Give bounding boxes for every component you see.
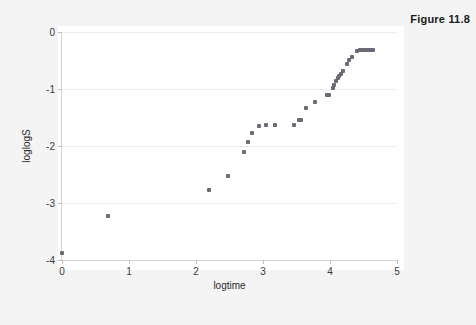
x-tick-mark <box>196 260 197 264</box>
data-point <box>257 124 261 128</box>
data-point <box>292 123 296 127</box>
y-tick-mark <box>58 203 62 204</box>
y-axis-label: loglogS <box>21 129 32 162</box>
y-tick-label: 0 <box>49 27 55 38</box>
x-tick-mark <box>330 260 331 264</box>
data-point <box>345 62 349 66</box>
figure-container: Figure 11.8 0-1-2-3-4 012345 logtime log… <box>0 0 476 325</box>
data-point <box>60 251 64 255</box>
y-tick-mark <box>58 32 62 33</box>
x-tick-label: 1 <box>126 266 132 277</box>
y-tick-mark <box>58 89 62 90</box>
y-tick-mark <box>58 146 62 147</box>
y-tick-label: -2 <box>46 141 55 152</box>
y-tick-label: -1 <box>46 84 55 95</box>
data-point <box>250 131 254 135</box>
data-point <box>226 174 230 178</box>
gridline-horizontal <box>62 32 397 33</box>
data-point <box>332 83 336 87</box>
data-point <box>350 55 354 59</box>
x-tick-label: 0 <box>59 266 65 277</box>
data-point <box>347 58 351 62</box>
x-axis-line <box>62 260 397 261</box>
x-tick-label: 3 <box>260 266 266 277</box>
x-axis-label: logtime <box>213 280 245 291</box>
data-point <box>341 69 345 73</box>
gridline-horizontal <box>62 203 397 204</box>
x-tick-mark <box>129 260 130 264</box>
data-point <box>273 123 277 127</box>
data-point <box>246 140 250 144</box>
data-point <box>313 100 317 104</box>
y-tick-label: -3 <box>46 198 55 209</box>
data-point <box>327 93 331 97</box>
gridline-horizontal <box>62 89 397 90</box>
data-point <box>299 118 303 122</box>
data-point <box>242 150 246 154</box>
x-tick-mark <box>62 260 63 264</box>
data-point <box>106 214 110 218</box>
figure-caption: Figure 11.8 <box>410 13 470 25</box>
data-point <box>264 123 268 127</box>
x-tick-label: 2 <box>193 266 199 277</box>
plot-area: 0-1-2-3-4 012345 logtime loglogS <box>62 32 397 260</box>
x-tick-label: 4 <box>327 266 333 277</box>
scatter-chart: 0-1-2-3-4 012345 logtime loglogS <box>18 14 418 310</box>
x-tick-mark <box>263 260 264 264</box>
data-point <box>207 188 211 192</box>
y-tick-label: -4 <box>46 255 55 266</box>
gridline-horizontal <box>62 146 397 147</box>
data-point <box>304 106 308 110</box>
x-tick-label: 5 <box>394 266 400 277</box>
x-tick-mark <box>397 260 398 264</box>
data-point <box>371 48 375 52</box>
